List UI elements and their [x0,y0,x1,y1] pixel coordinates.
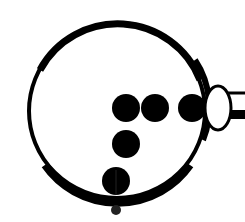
dot-2 [141,94,169,122]
dot-4 [112,130,140,158]
dot-3 [178,94,206,122]
diagram-canvas [0,0,245,222]
dot-1 [112,94,140,122]
ellipse-plug [205,86,231,130]
small-dot [111,205,121,215]
